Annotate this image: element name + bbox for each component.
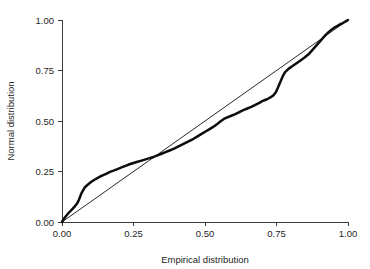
chart-figure: 0.000.250.500.751.00 0.000.250.500.751.0… bbox=[0, 0, 370, 269]
x-tick-label: 1.00 bbox=[339, 228, 358, 239]
y-axis-title: Normal distribution bbox=[5, 81, 16, 160]
pp-plot: 0.000.250.500.751.00 0.000.250.500.751.0… bbox=[0, 0, 370, 269]
x-tick-label: 0.00 bbox=[53, 228, 72, 239]
y-tick-label: 0.50 bbox=[36, 116, 55, 127]
x-tick-label: 0.25 bbox=[124, 228, 143, 239]
y-tick-label: 0.75 bbox=[36, 65, 55, 76]
y-tick-label: 0.25 bbox=[36, 166, 55, 177]
x-tick-label: 0.75 bbox=[267, 228, 286, 239]
x-tick-label: 0.50 bbox=[196, 228, 215, 239]
y-tick-label: 0.00 bbox=[36, 217, 55, 228]
y-tick-label: 1.00 bbox=[36, 15, 55, 26]
x-axis-title: Empirical distribution bbox=[161, 254, 249, 265]
